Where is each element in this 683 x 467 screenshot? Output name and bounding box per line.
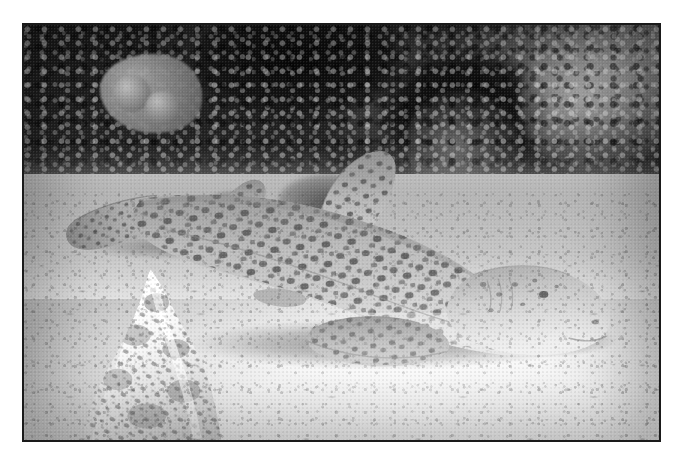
photograph-frame bbox=[22, 23, 661, 442]
sand-debris bbox=[24, 241, 659, 440]
screenshot-root: Zebra shark resting on sandy seabed bene… bbox=[0, 0, 683, 467]
photograph-canvas bbox=[24, 25, 659, 440]
